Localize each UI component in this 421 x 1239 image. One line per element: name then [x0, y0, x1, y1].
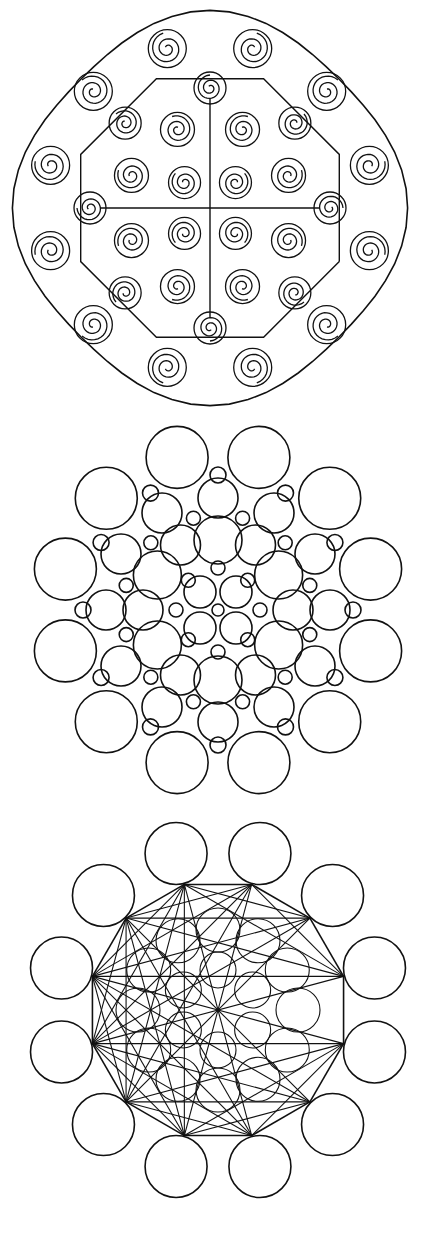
circle-line-lattice-figure: Twelve outer circles around a dodecagon …: [0, 810, 421, 1239]
circle-line-lattice-graphic: [0, 810, 421, 1239]
circle-packing-figure: Dodecagonal arrangement of tangent circl…: [0, 410, 421, 810]
spiral-mandala-graphic: [0, 0, 421, 410]
spiral-mandala-figure: Symmetric mandala of interlocking triple…: [0, 0, 421, 410]
circle-packing-graphic: [0, 410, 421, 810]
